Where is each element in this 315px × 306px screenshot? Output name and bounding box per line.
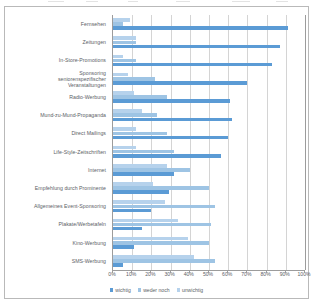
cropped-top-artifact — [0, 0, 315, 5]
bar-unwichtig — [113, 182, 153, 186]
bar-wichtig — [113, 227, 142, 231]
bar-weder-noch — [113, 41, 136, 45]
artifact-dash — [232, 1, 250, 2]
bar-wichtig — [113, 136, 228, 140]
bar-group — [113, 197, 305, 215]
bar-groups — [113, 15, 305, 270]
bar-group — [113, 161, 305, 179]
bar-unwichtig — [113, 91, 134, 95]
category-label: Mund-zu-Mund-Propaganda — [7, 106, 108, 124]
bar-group — [113, 234, 305, 252]
artifact-dash — [276, 1, 288, 2]
bar-weder-noch — [113, 168, 190, 172]
chart-frame: FernsehenZeitungenIn-Store-PromotionsSpo… — [4, 6, 309, 299]
bar-group — [113, 124, 305, 142]
x-tick-mark — [131, 270, 132, 273]
bar-weder-noch — [113, 223, 211, 227]
bar-group — [113, 33, 305, 51]
bar-group — [113, 252, 305, 270]
category-label: In-Store-Promotions — [7, 51, 108, 69]
bar-unwichtig — [113, 73, 128, 77]
chart-legend: wichtigweder nochunwichtig — [5, 287, 308, 293]
category-label: Allgemeines Event-Sponsoring — [7, 197, 108, 215]
bar-wichtig — [113, 172, 174, 176]
bar-unwichtig — [113, 18, 130, 22]
bar-unwichtig — [113, 55, 123, 59]
bar-wichtig — [113, 81, 247, 85]
bar-unwichtig — [113, 255, 194, 259]
x-tick-mark — [285, 270, 286, 273]
bar-wichtig — [113, 63, 272, 67]
x-tick-mark — [227, 270, 228, 273]
bar-unwichtig — [113, 109, 142, 113]
bar-group — [113, 215, 305, 233]
bar-weder-noch — [113, 259, 215, 263]
x-tick-mark — [170, 270, 171, 273]
bar-weder-noch — [113, 186, 209, 190]
legend-item[interactable]: wichtig — [110, 287, 131, 293]
category-label: Zeitungen — [7, 33, 108, 51]
legend-swatch-icon — [177, 288, 180, 291]
bar-wichtig — [113, 26, 288, 30]
bar-group — [113, 70, 305, 88]
category-label: Direct Mailings — [7, 124, 108, 142]
plot-area — [112, 15, 305, 270]
artifact-dash — [48, 1, 64, 2]
bar-wichtig — [113, 118, 232, 122]
category-label: Radio-Werbung — [7, 88, 108, 106]
bar-weder-noch — [113, 77, 155, 81]
legend-swatch-icon — [138, 288, 141, 291]
bar-wichtig — [113, 263, 123, 267]
bar-unwichtig — [113, 36, 136, 40]
bar-wichtig — [113, 209, 151, 213]
bar-wichtig — [113, 45, 280, 49]
category-label: Empfehlung durch Prominente — [7, 179, 108, 197]
gridline — [305, 15, 306, 270]
x-tick-mark — [189, 270, 190, 273]
bar-group — [113, 51, 305, 69]
artifact-dash — [128, 1, 138, 2]
legend-item[interactable]: weder noch — [138, 287, 170, 293]
x-tick-mark — [304, 270, 305, 273]
bar-unwichtig — [113, 200, 165, 204]
category-label: Plakate/Werbetafeln — [7, 215, 108, 233]
legend-item[interactable]: unwichtig — [177, 287, 204, 293]
bar-unwichtig — [113, 219, 178, 223]
x-tick-mark — [266, 270, 267, 273]
bar-wichtig — [113, 190, 169, 194]
bar-weder-noch — [113, 132, 167, 136]
bar-group — [113, 88, 305, 106]
legend-label: unwichtig — [182, 287, 203, 293]
artifact-dash — [86, 1, 98, 2]
x-tick-mark — [246, 270, 247, 273]
bar-unwichtig — [113, 146, 136, 150]
x-tick-mark — [150, 270, 151, 273]
plot-wrapper: FernsehenZeitungenIn-Store-PromotionsSpo… — [5, 7, 308, 298]
bar-group — [113, 179, 305, 197]
bar-weder-noch — [113, 113, 157, 117]
bar-weder-noch — [113, 95, 167, 99]
bar-weder-noch — [113, 205, 215, 209]
bar-weder-noch — [113, 59, 136, 63]
bar-wichtig — [113, 245, 134, 249]
bar-unwichtig — [113, 237, 188, 241]
legend-swatch-icon — [110, 288, 113, 291]
bar-group — [113, 143, 305, 161]
bar-weder-noch — [113, 22, 123, 26]
bar-group — [113, 15, 305, 33]
bar-wichtig — [113, 99, 230, 103]
category-label: Life-Style-Zeitschriften — [7, 143, 108, 161]
bar-wichtig — [113, 154, 221, 158]
category-axis: FernsehenZeitungenIn-Store-PromotionsSpo… — [7, 15, 108, 270]
category-label: Fernsehen — [7, 15, 108, 33]
legend-label: weder noch — [143, 287, 169, 293]
artifact-dash — [176, 1, 190, 2]
category-label: Internet — [7, 161, 108, 179]
bar-unwichtig — [113, 164, 167, 168]
x-tick-mark — [208, 270, 209, 273]
category-label: SMS-Werbung — [7, 252, 108, 270]
category-label: Kino-Werbung — [7, 234, 108, 252]
bar-weder-noch — [113, 241, 209, 245]
category-label: Sponsoring seniorenspezifischer Veransta… — [7, 70, 108, 88]
bar-group — [113, 106, 305, 124]
